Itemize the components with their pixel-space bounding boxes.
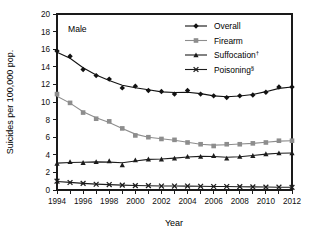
data-point-firearm-2009 — [251, 141, 256, 146]
y-tick-label: 20 — [41, 10, 51, 19]
series-suffocation — [54, 150, 294, 167]
data-point-suffocation-1995 — [67, 159, 72, 164]
data-point-firearm-2004 — [185, 140, 190, 145]
y-axis-ticks: 02468101214161820 — [41, 10, 57, 195]
chart-container: 02468101214161820 1994199619982000200220… — [0, 0, 312, 237]
data-point-firearm-2002 — [159, 137, 164, 142]
data-point-overall-2002 — [159, 89, 164, 94]
data-point-firearm-1994 — [55, 92, 60, 97]
suicide-rate-line-chart: 02468101214161820 1994199619982000200220… — [0, 0, 312, 237]
data-point-suffocation-2006 — [211, 153, 216, 158]
data-point-firearm-2006 — [211, 144, 216, 149]
x-tick-label: 2008 — [231, 197, 250, 206]
data-point-firearm-1995 — [68, 101, 73, 106]
data-point-firearm-2005 — [198, 142, 203, 147]
data-point-firearm-2001 — [146, 135, 151, 140]
series-line-overall — [57, 52, 292, 96]
data-point-overall-2010 — [263, 90, 268, 95]
legend-superscript: † — [256, 50, 259, 56]
series-overall — [54, 48, 294, 100]
data-point-firearm-1997 — [94, 116, 99, 121]
y-tick-label: 6 — [45, 133, 50, 142]
x-tick-label: 2002 — [152, 197, 171, 206]
data-point-overall-2012 — [289, 84, 294, 89]
chart-legend: OverallFirearmSuffocation†Poisoning§ — [185, 21, 259, 75]
plot-frame — [57, 14, 292, 190]
y-tick-label: 12 — [41, 80, 51, 89]
y-axis-title: Suicides per 100,000 pop. — [5, 50, 15, 155]
legend-label-firearm: Firearm — [214, 36, 243, 46]
data-point-firearm-2012 — [290, 138, 295, 143]
legend-label-poisoning: Poisoning§ — [214, 65, 254, 75]
data-point-overall-2001 — [146, 88, 151, 93]
x-tick-label: 2000 — [126, 197, 145, 206]
data-point-firearm-2003 — [172, 138, 177, 143]
data-point-firearm-1996 — [81, 110, 86, 115]
x-tick-label: 2006 — [205, 197, 224, 206]
x-tick-label: 2010 — [257, 197, 276, 206]
data-point-firearm-2011 — [277, 138, 282, 143]
data-point-firearm-1999 — [120, 126, 125, 131]
series-layer — [54, 48, 294, 190]
series-firearm — [55, 92, 295, 149]
y-tick-label: 4 — [45, 151, 50, 160]
data-point-firearm-2008 — [237, 142, 242, 147]
data-point-firearm-2000 — [133, 133, 138, 138]
y-tick-label: 0 — [45, 186, 50, 195]
data-point-suffocation-2007 — [224, 156, 229, 161]
x-tick-label: 2012 — [283, 197, 302, 206]
y-tick-label: 16 — [41, 45, 51, 54]
data-point-overall-2009 — [250, 92, 255, 97]
data-point-firearm-2007 — [224, 142, 229, 147]
y-tick-label: 18 — [41, 28, 51, 37]
data-point-firearm-1998 — [107, 119, 112, 124]
series-poisoning — [55, 179, 295, 190]
x-tick-label: 1998 — [100, 197, 119, 206]
x-tick-label: 2004 — [178, 197, 197, 206]
data-point-suffocation-2000 — [133, 157, 138, 162]
y-tick-label: 2 — [45, 168, 50, 177]
x-axis-ticks: 1994199619982000200220042006200820102012 — [48, 190, 302, 206]
legend-marker-overall — [193, 23, 198, 28]
legend-superscript: § — [251, 65, 254, 71]
y-tick-label: 10 — [41, 98, 51, 107]
data-point-overall-2005 — [198, 91, 203, 96]
legend-label-suffocation: Suffocation† — [214, 50, 259, 60]
data-point-overall-2007 — [224, 95, 229, 100]
panel-label: Male — [68, 24, 87, 34]
legend-marker-firearm — [194, 38, 199, 43]
x-tick-label: 1994 — [48, 197, 67, 206]
data-point-suffocation-1998 — [107, 158, 112, 163]
y-tick-label: 14 — [41, 63, 51, 72]
x-axis-title: Year — [165, 218, 183, 228]
data-point-overall-1996 — [80, 67, 85, 72]
y-tick-label: 8 — [45, 116, 50, 125]
data-point-overall-2008 — [237, 93, 242, 98]
legend-label-overall: Overall — [214, 21, 241, 31]
data-point-overall-1995 — [67, 54, 72, 59]
x-tick-label: 1996 — [74, 197, 93, 206]
data-point-overall-2006 — [211, 93, 216, 98]
data-point-firearm-2010 — [264, 140, 269, 145]
